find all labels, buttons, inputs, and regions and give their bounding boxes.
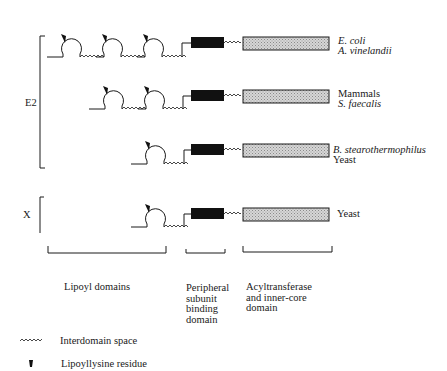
legend-lipoyllysine-label: Lipoyllysine residue (61, 359, 147, 370)
legend-interdomain-label: Interdomain space (60, 336, 137, 347)
organism-label: Yeast (337, 209, 360, 219)
acyl-bracket (243, 246, 332, 252)
core-domain-box (243, 90, 329, 103)
caption-line: Peripheral (186, 283, 229, 294)
row-1-chain (47, 34, 329, 57)
wedge-icon (29, 360, 33, 367)
organism-label: A. vinelandii (338, 46, 392, 56)
caption-line: binding (186, 304, 229, 315)
row-4-chain (131, 204, 329, 227)
group-label-e2: E2 (25, 98, 37, 108)
group-label-x: X (23, 210, 31, 220)
organism-label: Yeast (333, 155, 356, 165)
wavy-line-icon (20, 339, 42, 341)
lipoyl-bracket (48, 246, 166, 253)
x-bracket (40, 197, 44, 233)
binding-domain-box (191, 208, 224, 219)
acyl-caption: Acyltransferase and inner-core domain (246, 282, 312, 314)
caption-line: domain (186, 315, 229, 326)
core-domain-box (243, 144, 329, 157)
caption-line: Acyltransferase (246, 282, 312, 293)
peripheral-bracket (186, 249, 225, 253)
binding-domain-box (191, 37, 224, 48)
core-domain-box (243, 37, 329, 50)
organism-label: S. faecalis (338, 99, 381, 109)
e2-bracket (40, 36, 45, 168)
binding-domain-box (191, 90, 224, 101)
peripheral-caption: Peripheral subunit binding domain (186, 283, 229, 325)
core-domain-box (243, 208, 329, 221)
row-2-chain (89, 86, 329, 109)
caption-line: domain (246, 303, 312, 314)
lipoyl-domains-caption: Lipoyl domains (64, 282, 130, 293)
row-3-chain (131, 141, 329, 164)
binding-domain-box (191, 144, 224, 155)
